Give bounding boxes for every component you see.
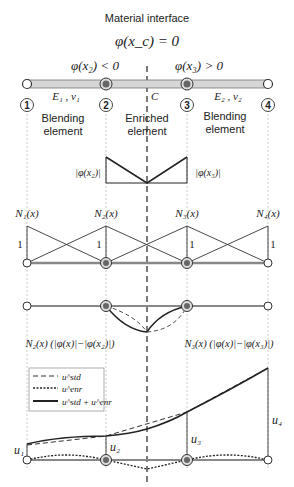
left-condition: φ(x₂) < 0 <box>71 58 119 73</box>
unit-label-3: 1 <box>189 238 195 250</box>
node-label-2: 2 <box>103 100 109 111</box>
shape-function-2: N₂(x) <box>93 207 118 220</box>
unit-label-4: 1 <box>270 238 276 250</box>
legend-enr: u^enr <box>62 384 83 394</box>
bar <box>27 80 268 88</box>
legend-total: u^std + u^enr <box>62 397 112 407</box>
node-1 <box>23 80 32 89</box>
node-label-4: 4 <box>265 100 271 111</box>
enriched-function-right: N₃(x) (|φ(x)|−|φ(x₃)|) <box>183 338 274 350</box>
enriched-right-solid <box>147 306 187 332</box>
material-left: E₁ , ν₁ <box>51 90 80 102</box>
node-4 <box>264 80 273 89</box>
right-condition: φ(x₃) > 0 <box>175 58 223 73</box>
interface-point-label: C <box>151 90 159 102</box>
level-set-right-label: |φ(x₃)| <box>195 167 221 179</box>
element-3-line1: Blending <box>204 110 247 122</box>
element-2-line2: element <box>127 125 166 137</box>
level-set-left-label: |φ(x₂)| <box>75 167 101 179</box>
shape-function-1: N₁(x) <box>14 207 39 220</box>
element-1-line2: element <box>43 125 82 137</box>
node-label-1: 1 <box>24 100 30 111</box>
shape-function-3: N₃(x) <box>174 207 199 220</box>
interface-condition: φ(x_c) = 0 <box>115 33 180 50</box>
u2-label: u₂ <box>110 440 120 454</box>
material-right: E₂ , ν₂ <box>213 90 242 102</box>
u1-label: u₁ <box>14 443 24 457</box>
element-2-line1: Enriched <box>125 112 168 124</box>
enriched-left-dashed <box>106 306 147 332</box>
element-1-line1: Blending <box>42 112 85 124</box>
u4-label: u₄ <box>272 413 282 427</box>
u3-label: u₃ <box>191 432 201 446</box>
unit-label-2: 1 <box>96 238 102 250</box>
legend-std: u^std <box>62 372 81 382</box>
title: Material interface <box>105 12 189 24</box>
element-3-line2: element <box>205 123 244 135</box>
shape-function-4: N₄(x) <box>255 207 280 220</box>
node-3-core <box>184 81 191 88</box>
enriched-left-solid <box>106 306 147 332</box>
xfem-diagram: Material interface φ(x_c) = 0 φ(x₂) < 0 … <box>0 0 294 487</box>
enriched-right-dashed <box>147 306 187 332</box>
node-2-core <box>103 81 110 88</box>
enriched-function-left: N₂(x) (|φ(x)|−|φ(x₂)|) <box>24 338 115 350</box>
unit-label-1: 1 <box>17 238 23 250</box>
node-label-3: 3 <box>184 100 190 111</box>
